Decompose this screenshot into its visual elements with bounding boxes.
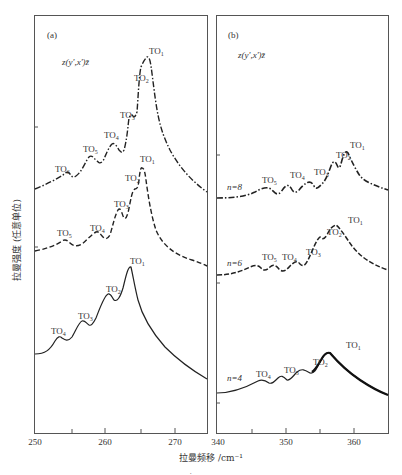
panel-b-n8-labels: TO1 TO2 TO3 TO4 TO5 xyxy=(262,140,365,186)
svg-text:TO3: TO3 xyxy=(284,365,299,376)
series-label-n6: n=6 xyxy=(227,258,243,268)
raman-spectra-figure: 250 260 270 340 350 360 拉曼频移 /cm⁻¹ 拉曼强度 … xyxy=(0,0,402,475)
svg-text:TO2: TO2 xyxy=(313,357,328,368)
svg-text:TO1: TO1 xyxy=(350,140,365,151)
svg-text:TO5: TO5 xyxy=(57,228,72,239)
tick-label-270: 270 xyxy=(168,437,182,447)
y-axis-title: 拉曼强度 (任意单位) xyxy=(11,199,22,281)
svg-text:TO3: TO3 xyxy=(114,199,129,210)
series-label-n8: n=8 xyxy=(227,182,243,192)
x-axis-title: 拉曼频移 /cm⁻¹ xyxy=(179,452,243,463)
series-label-n4: n=4 xyxy=(227,373,243,383)
svg-text:TO5: TO5 xyxy=(83,144,98,155)
svg-text:TO1: TO1 xyxy=(130,256,145,267)
svg-text:TO1: TO1 xyxy=(140,154,155,165)
svg-text:TO6: TO6 xyxy=(55,164,70,175)
svg-text:TO4: TO4 xyxy=(282,252,297,263)
svg-text:TO4: TO4 xyxy=(290,170,305,181)
svg-text:TO5: TO5 xyxy=(262,252,277,263)
svg-text:TO1: TO1 xyxy=(346,340,361,351)
panel-a-frame xyxy=(35,16,208,434)
panel-b-curve-n6 xyxy=(217,225,388,275)
svg-text:TO1: TO1 xyxy=(149,46,164,57)
panel-a-annotation: z(y',x')z̄ xyxy=(61,57,90,67)
tick-label-350: 350 xyxy=(279,437,293,447)
svg-text:TO4: TO4 xyxy=(104,130,119,141)
panel-b-curve-n4 xyxy=(217,353,388,395)
svg-text:TO2: TO2 xyxy=(125,173,140,184)
tick-label-340: 340 xyxy=(211,437,225,447)
svg-text:TO4: TO4 xyxy=(90,223,105,234)
caption-mark: . xyxy=(190,469,192,475)
svg-text:TO3: TO3 xyxy=(120,110,135,121)
panel-b-label: (b) xyxy=(228,30,239,40)
svg-text:TO1: TO1 xyxy=(348,215,363,226)
svg-text:TO2: TO2 xyxy=(336,150,351,161)
svg-text:TO2: TO2 xyxy=(106,284,121,295)
panel-a-middle-labels: TO1 TO2 TO3 TO4 TO5 xyxy=(57,154,155,239)
svg-text:TO3: TO3 xyxy=(78,311,93,322)
tick-label-360: 360 xyxy=(347,437,361,447)
panel-a-label: (a) xyxy=(47,30,57,40)
tick-label-250: 250 xyxy=(28,437,42,447)
svg-text:TO3: TO3 xyxy=(306,247,321,258)
svg-text:TO2: TO2 xyxy=(134,73,149,84)
svg-text:TO3: TO3 xyxy=(314,167,329,178)
panel-a-curve-middle xyxy=(35,168,207,266)
svg-text:TO4: TO4 xyxy=(51,326,66,337)
panel-a-curve-bottom xyxy=(35,267,207,379)
panel-b-n4-labels: TO1 TO2 TO3 TO4 xyxy=(256,340,361,380)
panel-b-annotation: z(y',x')z̄ xyxy=(237,50,266,60)
svg-text:TO4: TO4 xyxy=(256,369,271,380)
tick-label-260: 260 xyxy=(98,437,112,447)
svg-text:TO5: TO5 xyxy=(262,175,277,186)
